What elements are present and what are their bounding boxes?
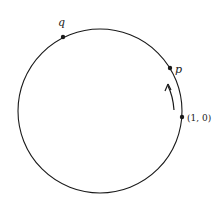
label-q: q (58, 16, 65, 29)
label-1-0: (1, 0) (187, 113, 211, 123)
point-q (61, 35, 65, 39)
label-p: p (175, 63, 182, 76)
unit-circle-diagram: q p (1, 0) (0, 0, 222, 203)
point-p (168, 66, 172, 70)
point-1-0 (180, 115, 184, 119)
counterclockwise-arrow-icon (165, 84, 174, 110)
unit-circle (18, 29, 182, 193)
